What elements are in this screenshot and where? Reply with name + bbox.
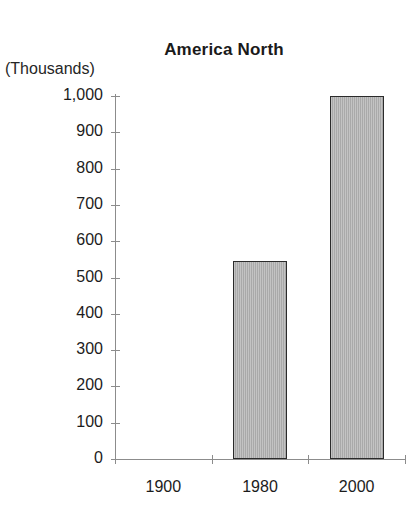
x-tick-label-1980: 1980 [212, 478, 309, 496]
y-tick-label: 500 [76, 268, 103, 286]
plot-area: 01002003004005006007008009001,000 [115, 96, 405, 459]
chart-title: America North [0, 40, 418, 60]
x-tick-mark [308, 455, 309, 464]
x-axis-line [115, 459, 405, 460]
y-tick-label: 300 [76, 340, 103, 358]
y-tick-label: 200 [76, 376, 103, 394]
y-tick-mark [111, 205, 120, 206]
y-tick-mark [111, 278, 120, 279]
y-tick-mark [111, 241, 120, 242]
y-tick-label: 100 [76, 413, 103, 431]
y-tick-label: 400 [76, 304, 103, 322]
y-tick-mark [111, 386, 120, 387]
x-tick-label-1900: 1900 [115, 478, 212, 496]
y-tick-mark [111, 350, 120, 351]
y-tick-mark [111, 132, 120, 133]
y-tick-label: 0 [94, 449, 103, 467]
x-tick-mark [212, 455, 213, 464]
y-tick-label: 1,000 [63, 86, 103, 104]
y-tick-label: 900 [76, 122, 103, 140]
y-tick-label: 800 [76, 159, 103, 177]
y-tick-mark [111, 423, 120, 424]
x-tick-mark [405, 455, 406, 464]
y-tick-mark [111, 96, 120, 97]
y-tick-mark [111, 169, 120, 170]
x-tick-mark [115, 455, 116, 464]
bar-chart-figure: America North (Thousands) 01002003004005… [0, 0, 418, 526]
y-axis-units-label: (Thousands) [5, 60, 95, 78]
y-tick-label: 600 [76, 231, 103, 249]
x-tick-label-2000: 2000 [308, 478, 405, 496]
bar-2000 [330, 96, 384, 459]
y-tick-label: 700 [76, 195, 103, 213]
y-tick-mark [111, 314, 120, 315]
bar-1980 [233, 261, 287, 459]
